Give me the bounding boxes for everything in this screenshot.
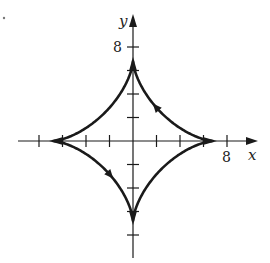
- y-tick-label-8: 8: [113, 39, 122, 55]
- cusp-tip-icon: [203, 137, 217, 145]
- cusp-tip-icon: [129, 57, 137, 71]
- y-axis-label: y: [118, 12, 128, 30]
- y-axis-arrow-icon: [129, 14, 137, 27]
- axes: [18, 20, 252, 258]
- x-axis-arrow-icon: [246, 137, 258, 145]
- astroid-plot: y 8 8 x: [0, 0, 270, 263]
- figure-marker-dot: [3, 17, 5, 19]
- cusp-tip-icon: [49, 137, 63, 145]
- cusp-tip-icon: [129, 211, 137, 225]
- x-tick-label-8: 8: [222, 149, 231, 165]
- x-axis-label: x: [248, 146, 257, 164]
